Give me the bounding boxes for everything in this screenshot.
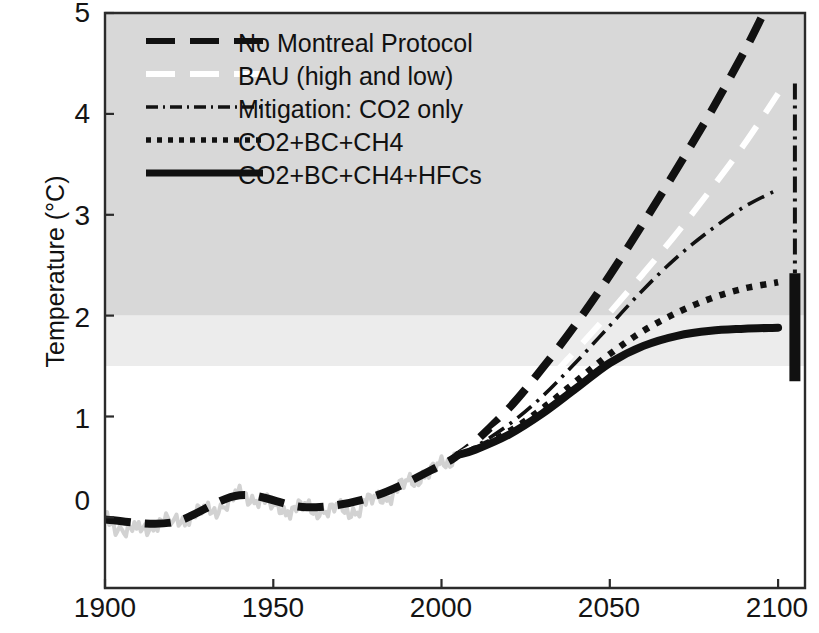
y-tick-label-4: 4 [44,98,90,130]
y-tick-label-2: 2 [44,302,90,334]
band-1p5-to-2c [105,316,805,366]
y-axis-label-wrapper: Temperature (°C) [0,40,46,510]
x-tick-label-2050: 2050 [554,592,664,624]
x-tick-label-1950: 1950 [218,592,328,624]
y-tick-label-3: 3 [44,200,90,232]
y-axis-label: Temperature (°C) [41,122,70,422]
legend-label-co2-bc-ch4-hfcs: CO2+BC+CH4+HFCs [238,161,482,190]
temperature-projection-chart: Temperature (°C) 5 4 3 2 1 0 1900 1950 2… [0,0,819,633]
legend-label-no-montreal-protocol: No Montreal Protocol [238,29,473,58]
y-tick-label-1: 1 [44,403,90,435]
y-tick-label-5: 5 [44,0,90,29]
x-tick-label-1900: 1900 [50,592,160,624]
legend-label-mitigation-co2-only: Mitigation: CO2 only [238,95,463,124]
legend-label-co2-bc-ch4: CO2+BC+CH4 [238,128,403,157]
legend-label-bau: BAU (high and low) [238,62,453,91]
x-tick-label-2000: 2000 [386,592,496,624]
x-tick-label-2100: 2100 [722,592,819,624]
y-tick-label-0: 0 [44,485,90,517]
band-below-1p5c [105,366,805,588]
